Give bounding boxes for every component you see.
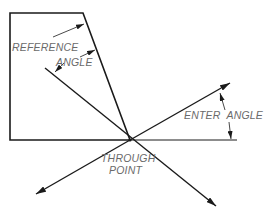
reference-label: REFERENCE: [12, 41, 79, 53]
enter-angle-label: ENTER ANGLE: [184, 109, 264, 121]
through-point-marker: [128, 138, 131, 141]
reference-angle-label: ANGLE: [55, 56, 93, 68]
angle-diagram: REFERENCE ANGLE ENTER ANGLE THROUGH POIN…: [0, 0, 270, 219]
through-label: THROUGH: [101, 152, 156, 164]
reference-boundary: [10, 13, 130, 140]
point-label: POINT: [109, 164, 143, 176]
enter-angle-arrow-lower: [229, 122, 231, 139]
reference-leader-arrow: [53, 24, 84, 37]
reference-angle-line: [50, 72, 216, 206]
enter-angle-arrow-upper: [220, 93, 225, 110]
reference-angle-line-tail: [45, 68, 50, 72]
